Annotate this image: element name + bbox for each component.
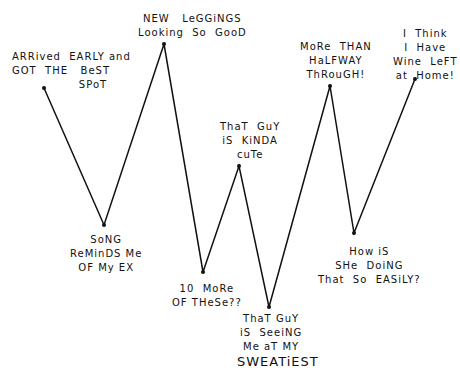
- label-wine: I Think I Have Wine LeFT at Home!: [393, 27, 458, 83]
- data-point: [352, 231, 356, 235]
- label-new-leggings: NEW LeGGiNGS Looking So GooD: [138, 12, 247, 40]
- data-point: [267, 305, 271, 309]
- data-point: [201, 270, 205, 274]
- data-point: [162, 42, 166, 46]
- label-song-reminds: SoNG ReMinDS Me OF My EX: [70, 233, 142, 275]
- label-halfway: MoRe THAN HaLFWAY ThRouGH!: [300, 40, 372, 82]
- label-arrived-early: ARRived EARLY and GOT THE BeST SPoT: [12, 50, 131, 92]
- label-how-is-she: How iS SHe DoiNG That So EASiLY?: [318, 245, 421, 287]
- data-point: [102, 223, 106, 227]
- data-point: [237, 164, 241, 168]
- label-ten-more: 10 MoRe OF THeSe??: [172, 282, 242, 310]
- label-sweatiest: SWEATiEST: [237, 354, 319, 370]
- data-point: [328, 84, 332, 88]
- label-guy-cute: ThaT GuY iS KiNDA cuTe: [220, 120, 280, 162]
- label-guy-seeing: ThaT GuY iS SeeiNG Me aT MY: [240, 312, 302, 354]
